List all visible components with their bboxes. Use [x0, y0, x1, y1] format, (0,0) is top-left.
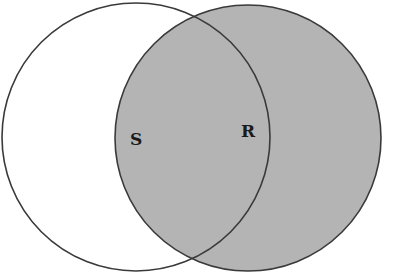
- venn-diagram: [0, 0, 400, 275]
- label-s: S: [130, 131, 142, 148]
- label-r: R: [241, 123, 255, 140]
